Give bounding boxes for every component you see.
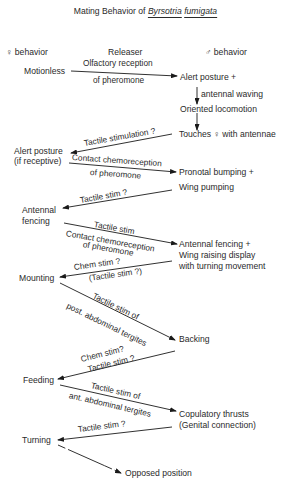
female-fencing: fencing — [22, 216, 50, 226]
female-turning: Turning — [22, 435, 51, 445]
female-feeding: Feeding — [23, 375, 54, 385]
male-alert-posture: Alert posture + — [180, 72, 236, 82]
male-wing-pumping: Wing pumping — [179, 182, 234, 192]
male-copulatory-thrusts: Copulatory thrusts — [179, 409, 249, 419]
male-oriented-locomotion: Oriented locomotion — [180, 104, 257, 114]
male-pronotal-bumping: Pronotal bumping + — [179, 167, 254, 177]
female-if-receptive: (if receptive) — [14, 156, 61, 166]
male-wing-raising: Wing raising display — [179, 250, 255, 260]
male-genital-connection: (Genital connection) — [179, 420, 256, 430]
female-antennal: Antennal — [22, 205, 56, 215]
releaser-olfactory: Olfactory reception — [83, 59, 153, 68]
arrow-turning-to-opposed — [58, 445, 121, 473]
female-mounting: Mounting — [19, 273, 54, 283]
female-alert-posture: Alert posture — [14, 146, 63, 156]
male-opposed-position: Opposed position — [125, 468, 192, 478]
female-motionless: Motionless — [24, 66, 65, 76]
male-touches-female: Touches ♀ with antennae — [179, 129, 276, 139]
releaser-of-pheromone-1: of pheromone — [93, 76, 144, 85]
male-antennal-fencing: Antennal fencing + — [179, 239, 250, 249]
male-antennal-waving: antennal waving — [201, 89, 263, 99]
male-backing: Backing — [179, 334, 210, 344]
male-turning-movement: with turning movement — [179, 261, 265, 271]
